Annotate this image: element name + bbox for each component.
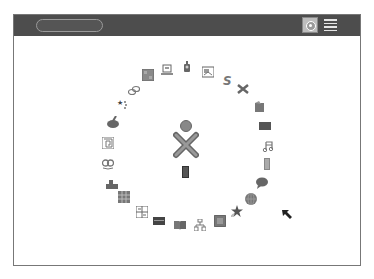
globe-icon[interactable]	[245, 193, 257, 205]
tree-network-icon[interactable]	[194, 219, 206, 231]
dark-panel-icon[interactable]	[153, 215, 165, 227]
xo-buddy-icon[interactable]	[173, 119, 199, 159]
blocks-icon[interactable]	[106, 178, 118, 190]
chain-icon[interactable]	[128, 84, 140, 96]
arrow-pointer-icon	[281, 209, 293, 221]
record-box-icon[interactable]	[214, 215, 226, 227]
pencil-doc-icon[interactable]	[253, 101, 265, 113]
home-view-button[interactable]	[302, 17, 318, 33]
abacus-icon[interactable]	[136, 206, 148, 218]
laptop-chat-icon[interactable]	[161, 64, 173, 76]
tools-icon[interactable]	[237, 83, 249, 95]
palette-icon[interactable]	[107, 116, 119, 128]
list-line	[324, 26, 337, 28]
search-input[interactable]	[37, 27, 102, 38]
search-field[interactable]	[36, 19, 103, 32]
home-view-dot	[309, 24, 312, 27]
speech-bubble-icon[interactable]	[256, 177, 268, 189]
music-note-icon[interactable]	[262, 140, 274, 152]
image-icon[interactable]	[202, 66, 214, 78]
journal-icon[interactable]	[182, 166, 189, 178]
grid3x3-icon[interactable]	[118, 191, 130, 203]
calculator-icon[interactable]	[261, 158, 273, 170]
dark-rect-icon[interactable]	[259, 120, 271, 132]
list-line	[324, 30, 337, 32]
book-icon[interactable]	[174, 219, 186, 231]
star-icon[interactable]	[231, 205, 243, 217]
robot-icon[interactable]	[181, 61, 193, 73]
list-view-button[interactable]	[324, 19, 337, 31]
top-toolbar	[14, 15, 360, 36]
stars-icon[interactable]: ★	[117, 98, 129, 110]
list-line	[324, 23, 337, 25]
svg-text:S: S	[223, 74, 232, 86]
list-view-icon	[324, 19, 337, 21]
svg-text:★: ★	[117, 99, 123, 107]
eyes-icon[interactable]	[102, 158, 114, 170]
grid-icon[interactable]	[142, 69, 154, 81]
scratch-s-icon[interactable]: S	[222, 74, 234, 86]
maze-icon[interactable]	[102, 137, 114, 149]
